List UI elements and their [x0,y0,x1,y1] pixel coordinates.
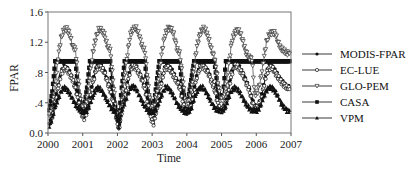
y-tick-label: 1.2 [29,36,43,48]
x-tick-label: 2006 [245,138,268,150]
plot-area [47,25,291,131]
legend-label: EC-LUE [340,64,379,76]
legend-label: CASA [340,96,369,108]
x-tick-label: 2003 [141,138,164,150]
y-tick-label: 1.6 [29,6,43,18]
x-axis-title: Time [157,152,181,164]
legend-label: MODIS-FPAR [340,48,406,60]
triangle-down-open-marker-icon [300,81,334,91]
y-tick-label: .4 [35,97,44,109]
legend-item-glo-pem: GLO-PEM [300,78,416,94]
x-tick-label: 2007 [280,138,303,150]
legend: MODIS-FPAREC-LUEGLO-PEMCASAVPM [300,46,416,126]
circle-filled-marker-icon [300,49,334,59]
x-tick-label: 2005 [211,138,234,150]
x-tick-label: 2002 [106,138,128,150]
x-tick-label: 2004 [176,138,199,150]
legend-item-vpm: VPM [300,110,416,126]
legend-item-modis-fpar: MODIS-FPAR [300,46,416,62]
y-tick-label: .8 [35,67,44,79]
legend-item-casa: CASA [300,94,416,110]
square-filled-marker-icon [300,97,334,107]
circle-open-marker-icon [300,65,334,75]
triangle-up-filled-marker-icon [300,113,334,123]
y-axis-title: FPAR [8,64,20,92]
legend-label: GLO-PEM [340,80,389,92]
x-tick-label: 2001 [72,138,94,150]
legend-label: VPM [340,112,364,124]
x-tick-label: 2000 [37,138,60,150]
legend-item-ec-lue: EC-LUE [300,62,416,78]
